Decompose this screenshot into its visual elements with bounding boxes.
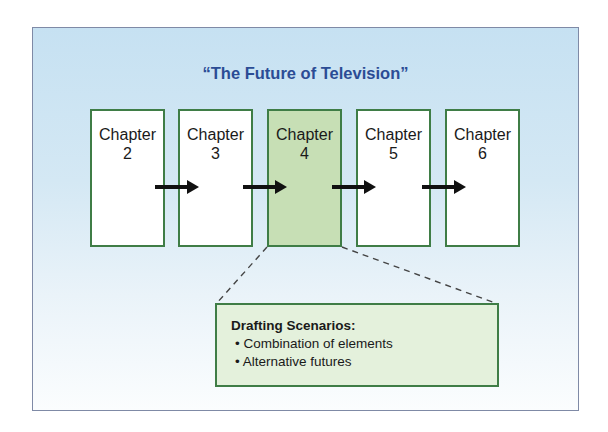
callout-box: Drafting Scenarios: • Combination of ele… (215, 303, 499, 387)
callout-heading: Drafting Scenarios: (231, 317, 497, 335)
slide-frame: “The Future of Television” Chapter 2 Cha… (32, 27, 579, 411)
callout-item: • Combination of elements (231, 335, 497, 353)
callout-item: • Alternative futures (231, 353, 497, 371)
